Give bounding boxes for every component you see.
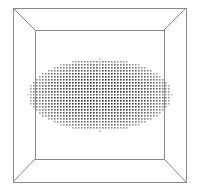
ellipsoid-point-cloud (27, 58, 173, 132)
box-edge-top-left (13, 8, 35, 30)
scene-canvas (0, 0, 197, 190)
box-edge-bottom-right (164, 159, 186, 182)
box-edge-bottom-left (13, 159, 35, 182)
point-cloud-viewer (0, 0, 197, 190)
box-edge-top-right (164, 8, 186, 30)
